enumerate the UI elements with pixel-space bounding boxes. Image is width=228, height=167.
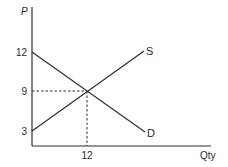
demand-curve <box>32 52 145 132</box>
chart-canvas: P Qty 12 9 3 12 S D <box>0 0 228 167</box>
y-axis-label: P <box>21 6 28 17</box>
x-axis-label: Qty <box>200 150 216 161</box>
supply-demand-chart: P Qty 12 9 3 12 S D <box>0 0 228 167</box>
y-tick-3: 3 <box>21 126 27 137</box>
x-tick-12: 12 <box>81 150 93 161</box>
demand-label: D <box>147 127 155 139</box>
supply-label: S <box>146 45 153 57</box>
y-tick-12: 12 <box>16 47 28 58</box>
y-tick-9: 9 <box>21 86 27 97</box>
